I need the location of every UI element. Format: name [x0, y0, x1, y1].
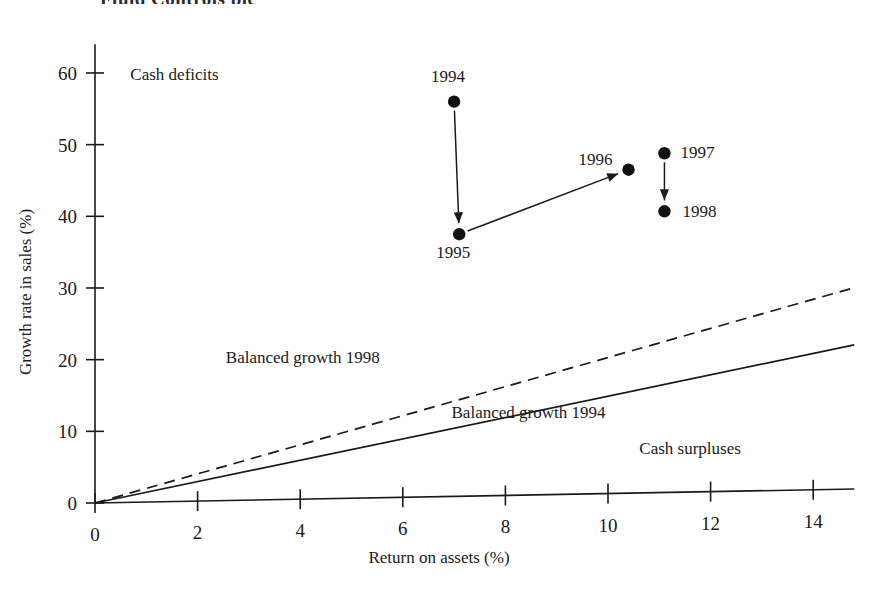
x-tick-label: 4: [295, 520, 305, 541]
y-tick-label: 30: [58, 278, 77, 299]
x-tick-label: 8: [501, 516, 511, 537]
arrows-group: [454, 111, 669, 231]
arrow-1994-to-1995: [454, 111, 458, 224]
arrow-1995-to-1996-head: [606, 173, 618, 182]
arrow-1995-to-1996: [468, 174, 619, 231]
data-point-label-1997: 1997: [680, 143, 715, 162]
x-axis-line: [95, 489, 854, 503]
chart-figure: 010203040506002468101214 Balanced growth…: [0, 0, 878, 595]
data-point-label-1998: 1998: [682, 202, 716, 221]
x-tick-label: 10: [599, 515, 618, 536]
x-tick-label: 12: [701, 513, 720, 534]
trend-line-dashed: [95, 288, 854, 503]
chart-axes: 010203040506002468101214: [58, 44, 854, 545]
trend-lines-group: Balanced growth 1994Balanced growth 1998: [95, 288, 854, 503]
data-point-1995[interactable]: [453, 228, 465, 240]
y-tick-label: 50: [58, 135, 77, 156]
x-tick-label: 2: [193, 522, 203, 543]
data-point-label-1995: 1995: [436, 243, 470, 262]
data-point-1998[interactable]: [658, 205, 670, 217]
trend-line-label: Balanced growth 1998: [226, 348, 380, 367]
arrow-1997-to-1998-head: [660, 189, 669, 200]
y-tick-label: 10: [58, 421, 77, 442]
data-point-1994[interactable]: [448, 95, 460, 107]
y-tick-label: 0: [68, 493, 78, 514]
y-tick-label: 20: [58, 350, 77, 371]
data-point-1996[interactable]: [622, 164, 634, 176]
y-tick-label: 40: [58, 206, 77, 227]
data-point-label-1994: 1994: [431, 67, 466, 86]
axis-titles-group: Return on assets (%)Growth rate in sales…: [16, 209, 510, 567]
y-axis-title: Growth rate in sales (%): [16, 209, 35, 375]
x-tick-label: 6: [398, 518, 408, 539]
y-tick-label: 60: [58, 63, 77, 84]
trend-line-label: Balanced growth 1994: [452, 403, 606, 422]
data-point-label-1996: 1996: [579, 150, 613, 169]
cash-deficits-label: Cash deficits: [130, 65, 218, 84]
x-tick-label: 14: [804, 511, 824, 532]
chart-svg: 010203040506002468101214 Balanced growth…: [0, 0, 878, 595]
data-point-1997[interactable]: [658, 147, 670, 159]
x-axis-title: Return on assets (%): [368, 548, 509, 567]
data-points-group: 19941995199619971998: [431, 67, 716, 263]
cash-surpluses-label: Cash surpluses: [639, 439, 741, 458]
arrow-1994-to-1995-head: [454, 212, 463, 223]
trend-line-solid: [95, 345, 854, 503]
x-tick-label: 0: [90, 524, 100, 545]
